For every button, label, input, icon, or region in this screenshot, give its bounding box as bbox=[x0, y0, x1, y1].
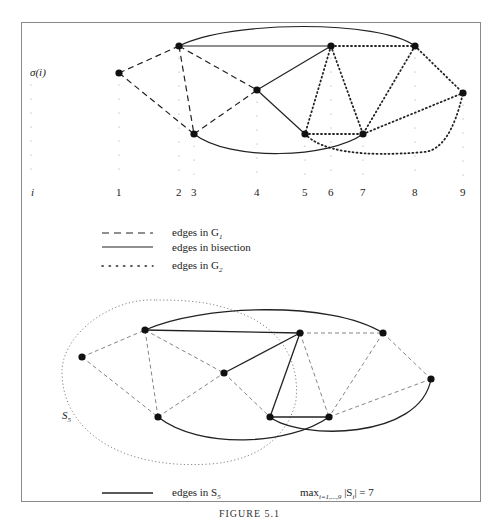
guide-dot bbox=[330, 169, 331, 170]
guide-dot bbox=[178, 155, 179, 156]
guide-dot bbox=[30, 84, 31, 85]
legend-label-g1: edges in G1 bbox=[172, 226, 223, 241]
guide-dot bbox=[414, 99, 415, 100]
graph-node-7 bbox=[325, 413, 332, 420]
max-cut-expression: maxi=1,...,9 |Si| = 7 bbox=[300, 486, 374, 501]
graph-node-5 bbox=[266, 413, 273, 420]
guide-dot bbox=[362, 173, 363, 174]
guide-dot bbox=[256, 101, 257, 102]
edge-g2 bbox=[363, 46, 415, 134]
graph-node-2 bbox=[141, 326, 148, 333]
edge-other bbox=[82, 357, 158, 417]
edge-s5 bbox=[224, 333, 300, 373]
guide-dot bbox=[178, 99, 179, 100]
guide-dot bbox=[256, 129, 257, 130]
graph-node-3 bbox=[190, 130, 197, 137]
guide-dot bbox=[304, 159, 305, 160]
guide-dot bbox=[330, 71, 331, 72]
graph-node-4 bbox=[220, 369, 227, 376]
edge-other bbox=[224, 373, 270, 417]
index-tick-4: 4 bbox=[254, 186, 260, 198]
index-tick-3: 3 bbox=[191, 186, 197, 198]
guide-dot bbox=[30, 140, 31, 141]
edge-other bbox=[158, 373, 224, 417]
guide-dot bbox=[30, 154, 31, 155]
graph-node-6 bbox=[327, 42, 334, 49]
guide-dot bbox=[193, 159, 194, 160]
graph-node-4 bbox=[253, 86, 260, 93]
guide-dot bbox=[193, 145, 194, 146]
index-tick-6: 6 bbox=[328, 186, 334, 198]
edge-other bbox=[82, 330, 145, 357]
guide-dot bbox=[193, 173, 194, 174]
bottom-graph-edges bbox=[82, 310, 431, 440]
guide-dot bbox=[118, 84, 119, 85]
guide-dot bbox=[414, 85, 415, 86]
guide-dot bbox=[256, 143, 257, 144]
index-tick-1: 1 bbox=[116, 186, 122, 198]
guide-dot bbox=[178, 57, 179, 58]
guide-dot bbox=[462, 160, 463, 161]
graph-figure bbox=[0, 0, 499, 521]
guide-dot bbox=[330, 99, 331, 100]
graph-node-3 bbox=[154, 413, 161, 420]
edge-g2 bbox=[363, 93, 463, 134]
guide-dot bbox=[30, 126, 31, 127]
edge-s5 bbox=[145, 330, 300, 333]
guide-dot bbox=[414, 169, 415, 170]
edge-g1 bbox=[179, 46, 257, 90]
legend-label-g2: edges in G2 bbox=[172, 259, 223, 274]
guide-dot bbox=[178, 127, 179, 128]
edge-g2 bbox=[305, 93, 463, 154]
guide-dot bbox=[462, 174, 463, 175]
edge-g2 bbox=[415, 46, 463, 93]
sigma-axis-label: σ(i) bbox=[30, 66, 46, 78]
index-tick-5: 5 bbox=[302, 186, 308, 198]
graph-node-8 bbox=[379, 329, 386, 336]
guide-dot bbox=[330, 155, 331, 156]
guide-dot bbox=[414, 57, 415, 58]
edge-g1 bbox=[194, 90, 257, 134]
index-tick-8: 8 bbox=[412, 186, 418, 198]
graph-node-2 bbox=[175, 42, 182, 49]
index-axis-label: i bbox=[31, 186, 34, 198]
edge-other bbox=[300, 333, 329, 417]
edge-other bbox=[329, 333, 383, 417]
guide-dot bbox=[330, 127, 331, 128]
guide-dot bbox=[414, 127, 415, 128]
index-tick-9: 9 bbox=[460, 186, 466, 198]
graph-node-9 bbox=[427, 375, 434, 382]
legend-label-s5: edges in S5 bbox=[172, 486, 221, 501]
guide-dot bbox=[304, 145, 305, 146]
guide-dot bbox=[462, 146, 463, 147]
graph-node-9 bbox=[459, 89, 466, 96]
edge-other bbox=[329, 379, 431, 417]
edge-s5 bbox=[270, 379, 431, 431]
guide-dot bbox=[362, 145, 363, 146]
guide-dot bbox=[30, 112, 31, 113]
guide-dot bbox=[118, 140, 119, 141]
guide-dot bbox=[178, 85, 179, 86]
top-graph-nodes bbox=[115, 42, 466, 137]
guide-dot bbox=[178, 169, 179, 170]
edge-bisection bbox=[179, 27, 415, 47]
guide-dot bbox=[330, 141, 331, 142]
guide-dot bbox=[118, 168, 119, 169]
guide-dot bbox=[118, 98, 119, 99]
index-tick-7: 7 bbox=[360, 186, 366, 198]
guide-dot bbox=[330, 113, 331, 114]
edge-g2 bbox=[331, 46, 363, 134]
guide-dot bbox=[118, 126, 119, 127]
s5-region-label: S5 bbox=[62, 409, 71, 424]
guide-dot bbox=[256, 115, 257, 116]
guide-dot bbox=[330, 57, 331, 58]
guide-dot bbox=[462, 132, 463, 133]
edge-s5 bbox=[145, 310, 383, 333]
guide-dot bbox=[256, 157, 257, 158]
guide-dot bbox=[256, 171, 257, 172]
legend-label-bisection: edges in bisection bbox=[172, 241, 251, 253]
edge-g1 bbox=[179, 46, 194, 134]
edge-bisection bbox=[257, 46, 331, 90]
guide-dot bbox=[30, 168, 31, 169]
guide-dot bbox=[118, 112, 119, 113]
